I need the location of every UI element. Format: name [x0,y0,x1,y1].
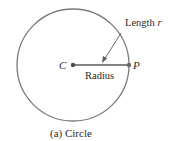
point-p [127,63,131,67]
radius-label: Radius [85,70,114,81]
center-label: C [59,59,67,71]
length-label-var: r [157,17,162,28]
length-label-prefix: Length [125,17,157,28]
length-label: Length r [125,17,162,28]
circle-diagram: C P Radius Length r (a) Circle [0,0,180,141]
point-label: P [132,59,140,71]
caption: (a) Circle [50,127,92,140]
center-point [71,63,75,67]
length-arrow [104,33,121,60]
